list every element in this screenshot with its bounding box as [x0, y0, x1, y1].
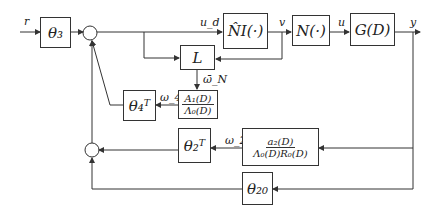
numerator: a₂(D) [266, 136, 296, 148]
block-g: G(D) [350, 13, 395, 46]
block-a2-over-lambda0-r0: a₂(D) Λ₀(D)R₀(D) [242, 128, 319, 166]
fraction: A₁(D) Λ₀(D) [182, 93, 213, 116]
block-theta3-label: θ₃ [48, 24, 63, 42]
signal-v-label: v [279, 17, 285, 28]
numerator: A₁(D) [182, 93, 213, 105]
denominator: Λ₀(D) [182, 105, 213, 116]
block-ni-hat-label: N̂I(·) [228, 22, 264, 40]
block-a1-over-lambda0: A₁(D) Λ₀(D) [178, 90, 218, 119]
block-l: L [180, 45, 215, 70]
block-theta4-transpose: θ₄ᵀ [123, 90, 156, 121]
block-theta3: θ₃ [40, 17, 71, 48]
block-l-label: L [193, 49, 203, 67]
denominator: Λ₀(D)R₀(D) [251, 148, 309, 159]
block-theta20: θ₂₀ [242, 172, 273, 205]
block-g-label: G(D) [355, 21, 391, 39]
block-ni-hat: N̂I(·) [223, 13, 268, 49]
block-theta2-transpose: θ₂ᵀ [178, 128, 211, 163]
block-theta20-label: θ₂₀ [247, 180, 268, 198]
signal-r-label: r [24, 16, 29, 27]
signal-u-label: u [338, 17, 345, 28]
block-diagram: r u_d v u y ω̄_N ω_4 ω_2 θ₃ N̂I(·) N(·) … [0, 0, 443, 214]
fraction: a₂(D) Λ₀(D)R₀(D) [251, 136, 309, 159]
signal-omega-n-label: ω̄_N [203, 74, 227, 85]
block-theta4-label: θ₄ᵀ [129, 97, 150, 115]
signal-y-label: y [410, 17, 416, 28]
signal-ud-label: u_d [200, 17, 220, 28]
block-theta2-label: θ₂ᵀ [184, 137, 205, 155]
block-n-label: N(·) [296, 22, 326, 40]
block-n: N(·) [292, 15, 330, 46]
